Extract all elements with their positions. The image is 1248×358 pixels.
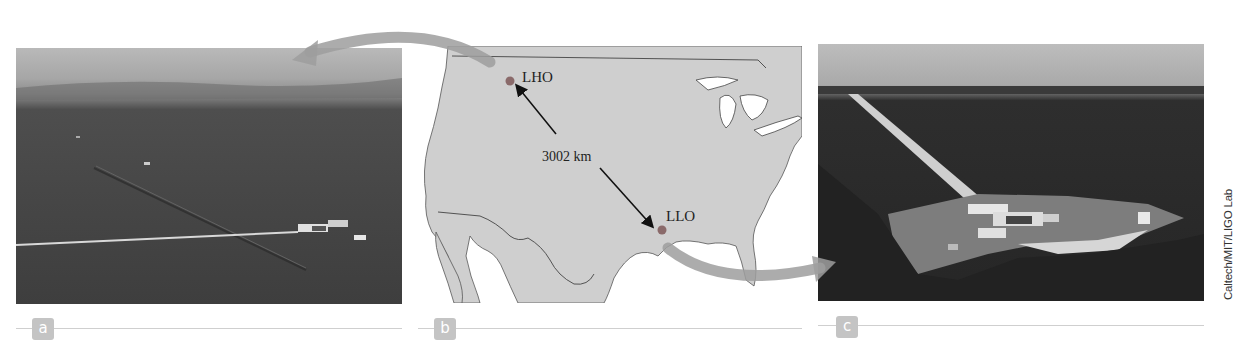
llo-label: LLO — [666, 208, 695, 225]
panel-c-label: c — [836, 316, 858, 338]
lho-site-marker — [506, 77, 515, 86]
panel-a-rule — [16, 328, 402, 329]
panel-c-livingston-photo — [818, 44, 1204, 301]
lho-label: LHO — [522, 69, 553, 86]
ligo-figure: LHO LLO 3002 km — [0, 0, 1248, 358]
panel-c-rule — [818, 325, 1204, 326]
llo-site-marker — [658, 226, 667, 235]
panel-b-us-map: LHO LLO 3002 km — [418, 46, 802, 303]
photo-credit: Caltech/MIT/LIGO Lab — [1222, 189, 1234, 300]
panel-b-label: b — [434, 318, 456, 340]
panel-a-label: a — [32, 318, 54, 340]
hanford-photo-illustration — [16, 48, 402, 304]
panel-a-hanford-photo — [16, 48, 402, 304]
us-map — [418, 46, 802, 303]
distance-label: 3002 km — [540, 149, 593, 165]
panel-b-rule — [418, 328, 802, 329]
livingston-photo-illustration — [818, 44, 1204, 301]
